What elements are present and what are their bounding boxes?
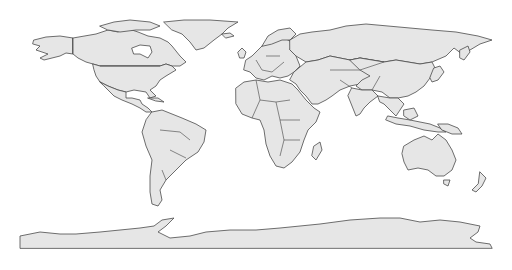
world-map <box>0 0 512 270</box>
world-map-svg <box>0 0 512 270</box>
